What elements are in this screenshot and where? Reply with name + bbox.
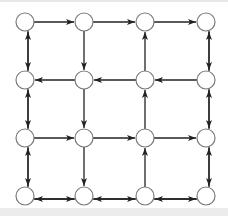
graph-node-1-0 — [16, 71, 34, 89]
graph-node-0-1 — [75, 13, 93, 31]
graph-node-3-2 — [136, 187, 154, 205]
graph-node-3-1 — [75, 187, 93, 205]
graph-node-2-2 — [136, 129, 154, 147]
edges-layer — [28, 22, 209, 199]
graph-node-0-3 — [197, 13, 215, 31]
graph-node-2-3 — [197, 129, 215, 147]
diagram-canvas — [0, 0, 228, 216]
graph-node-1-2 — [136, 71, 154, 89]
graph-node-1-1 — [75, 71, 93, 89]
graph-node-3-0 — [16, 187, 34, 205]
nodes-layer — [16, 13, 215, 205]
bottom-border — [0, 208, 228, 216]
graph-node-0-0 — [16, 13, 34, 31]
grid-graph — [0, 0, 228, 216]
graph-node-3-3 — [197, 187, 215, 205]
graph-node-1-3 — [197, 71, 215, 89]
graph-node-2-0 — [16, 129, 34, 147]
graph-node-0-2 — [136, 13, 154, 31]
graph-node-2-1 — [75, 129, 93, 147]
